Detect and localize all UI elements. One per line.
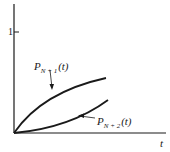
- probability-curves-diagram: 1 t PN + 1(t) PN + 2(t): [0, 0, 170, 152]
- label-p-n-plus-1-sub: N + 1: [41, 67, 57, 75]
- plot-area: [0, 0, 170, 152]
- label-p-n-plus-1-arg: (t): [58, 60, 68, 72]
- label-p-n-plus-2: PN + 2(t): [97, 112, 132, 128]
- arrowhead-p-n-plus-1-icon: [50, 84, 55, 90]
- label-p-n-plus-2-arg: (t): [121, 115, 131, 127]
- label-p-n-plus-2-sub: N + 2: [104, 122, 120, 130]
- y-tick-label: 1: [8, 27, 13, 37]
- label-p-n-plus-1: PN + 1(t): [34, 57, 69, 73]
- label-p-n-plus-2-main: P: [97, 115, 104, 127]
- x-axis-label: t: [160, 138, 163, 149]
- label-p-n-plus-1-main: P: [34, 60, 41, 72]
